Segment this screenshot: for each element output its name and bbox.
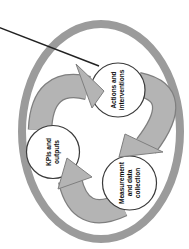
arrow-band-kpis-to-actions bbox=[40, 86, 88, 130]
diagram-canvas bbox=[0, 0, 189, 249]
callout-pointer-line bbox=[0, 27, 99, 66]
node-circle-measurement bbox=[103, 156, 157, 210]
cycle-diagram: Actions and interventions Measurement an… bbox=[0, 0, 189, 249]
